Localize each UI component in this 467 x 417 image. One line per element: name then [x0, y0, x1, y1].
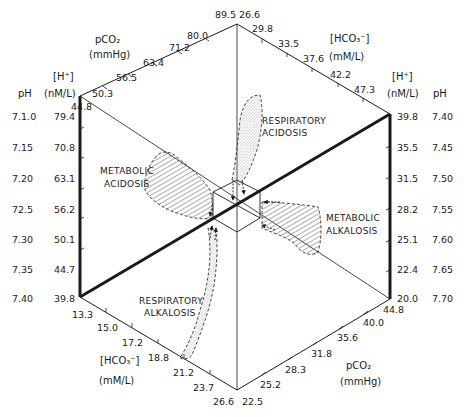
hco3-tick-value: 17.2: [122, 337, 143, 348]
hco3-tick-value: 21.2: [173, 367, 194, 378]
left-ph-value: 7.20: [12, 173, 33, 184]
right-axis-labels: [H⁺] (nM/L) pH 39.8 35.5 31.5 28.2 25.1 …: [387, 71, 453, 304]
hco3-tick-value: 42.2: [330, 69, 351, 80]
upper-left-pco2-title: pCO₂: [95, 34, 120, 45]
pco2-tick-value: 50.3: [92, 88, 113, 99]
left-ph-value: 7.15: [12, 142, 33, 153]
pco2-tick-value: 71.2: [169, 42, 190, 53]
pco2-tick-value: 56.5: [116, 72, 137, 83]
hco3-tick-value: 26.6: [239, 9, 260, 20]
bold-diagonal-normal-ph: [80, 114, 390, 297]
hco3-tick-value: 15.0: [97, 322, 118, 333]
right-h-value: 20.0: [397, 293, 418, 304]
pco2-tick-value: 31.8: [311, 348, 332, 359]
pco2-tick-value: 22.5: [242, 396, 263, 407]
left-h-value: 44.7: [54, 264, 75, 275]
hco3-tick-value: 29.8: [252, 23, 273, 34]
right-ph-value: 7.55: [432, 204, 453, 215]
left-h-value: 56.2: [54, 204, 75, 215]
left-h-value: 50.1: [54, 234, 75, 245]
left-h-value: 70.8: [54, 142, 75, 153]
left-h-value: 39.8: [54, 293, 75, 304]
lower-left-hco3-labels: [HCO₃⁻] (mM/L) 13.3 15.0 17.2 18.8 21.2 …: [72, 309, 234, 407]
right-h-value: 39.8: [397, 111, 418, 122]
lower-right-pco2-units: (mmHg): [340, 376, 381, 387]
hco3-tick-value: 13.3: [72, 309, 93, 320]
label-metabolic-alkalosis-1: METABOLIC: [326, 213, 380, 223]
pco2-tick-value: 25.2: [260, 379, 281, 390]
hco3-tick-value: 18.8: [148, 352, 169, 363]
hco3-tick-value: 23.7: [193, 382, 214, 393]
left-axis-labels: pH [H⁺] (nM/L) 7.1.0 7.15 7.20 72.5 7.30…: [12, 71, 76, 304]
label-metabolic-alkalosis-2: ALKALOSIS: [326, 226, 378, 236]
respiratory-acidosis-band: [232, 95, 262, 185]
right-h-value: 31.5: [397, 173, 418, 184]
left-ph-value: 7.35: [12, 264, 33, 275]
pco2-tick-value: 44.8: [71, 101, 92, 112]
right-ph-value: 7.60: [432, 234, 453, 245]
pco2-tick-value: 28.3: [285, 364, 306, 375]
hco3-tick-value: 37.6: [303, 53, 324, 64]
right-h-value: 28.2: [397, 204, 418, 215]
right-ph-value: 7.45: [432, 142, 453, 153]
label-metabolic-acidosis-1: METABOLIC: [100, 166, 154, 176]
label-metabolic-acidosis-2: ACIDOSIS: [104, 179, 149, 189]
region-metabolic-acidosis: [145, 152, 213, 219]
left-h-value: 79.4: [54, 111, 75, 122]
right-h-units: (nM/L): [387, 88, 419, 99]
right-ph-value: 7.65: [432, 264, 453, 275]
region-respiratory-acidosis: [232, 95, 262, 185]
left-h-value: 63.1: [54, 173, 75, 184]
hco3-tick-value: 47.3: [354, 84, 375, 95]
left-ph-value: 7.30: [12, 234, 33, 245]
upper-right-hco3-units: (mM/L): [329, 51, 364, 62]
label-respiratory-acidosis-1: RESPIRATORY: [262, 116, 326, 126]
hco3-tick-value: 26.6: [213, 396, 234, 407]
hco3-tick-value: 33.5: [278, 38, 299, 49]
label-respiratory-acidosis-2: ACIDOSIS: [262, 128, 307, 138]
left-ph-value: 7.40: [12, 293, 33, 304]
label-respiratory-alkalosis-2: ALKALOSIS: [144, 308, 196, 318]
left-ph-value: 72.5: [12, 204, 33, 215]
acid-base-nomogram: RESPIRATORY ACIDOSIS METABOLIC ACIDOSIS …: [0, 0, 467, 417]
left-h-header: [H⁺]: [53, 71, 74, 82]
upper-left-pco2-labels: pCO₂ (mmHg) 44.8 50.3 56.5 63.4 71.2 80.…: [71, 9, 236, 112]
label-respiratory-alkalosis-1: RESPIRATORY: [139, 296, 203, 306]
lower-right-pco2-title: pCO₂: [346, 360, 371, 371]
left-h-units: (nM/L): [44, 88, 76, 99]
pco2-tick-value: 80.0: [187, 30, 208, 41]
right-h-header: [H⁺]: [392, 71, 413, 82]
pco2-tick-value: 89.5: [215, 9, 236, 20]
right-ph-value: 7.70: [432, 293, 453, 304]
metabolic-acidosis-band: [145, 152, 213, 219]
pco2-tick-value: 63.4: [143, 57, 164, 68]
upper-right-hco3-title: [HCO₃⁻]: [330, 33, 370, 44]
right-ph-value: 7.40: [432, 111, 453, 122]
right-h-value: 35.5: [397, 142, 418, 153]
nomogram-svg: RESPIRATORY ACIDOSIS METABOLIC ACIDOSIS …: [0, 0, 467, 417]
right-ph-header: pH: [433, 88, 447, 99]
lower-left-hco3-units: (mM/L): [99, 375, 134, 386]
upper-right-hco3-labels: [HCO₃⁻] (mM/L) 26.6 29.8 33.5 37.6 42.2 …: [239, 9, 375, 95]
region-respiratory-alkalosis: [180, 228, 217, 359]
left-ph-header: pH: [18, 88, 32, 99]
pco2-tick-value: 44.8: [383, 304, 404, 315]
right-h-value: 25.1: [397, 234, 418, 245]
right-ph-value: 7.50: [432, 173, 453, 184]
lower-left-hco3-title: [HCO₃⁻]: [100, 355, 140, 366]
lower-right-pco2-labels: pCO₂ (mmHg) 22.5 25.2 28.3 31.8 35.6 40.…: [242, 304, 404, 407]
right-h-value: 22.4: [397, 264, 418, 275]
upper-left-pco2-units: (mmHg): [89, 49, 130, 60]
pco2-tick-value: 40.0: [363, 317, 384, 328]
left-ph-value: 7.1.0: [12, 111, 36, 122]
respiratory-alkalosis-band: [180, 228, 217, 359]
pco2-tick-value: 35.6: [337, 332, 358, 343]
